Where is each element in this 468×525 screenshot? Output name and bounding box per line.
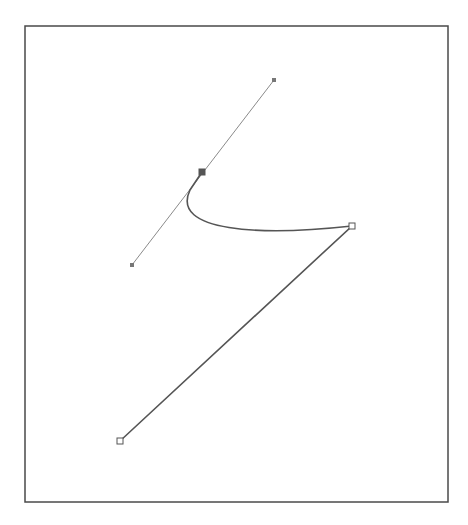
handle-point-upper-icon[interactable]: [272, 78, 276, 82]
path-editing-canvas[interactable]: [0, 0, 468, 525]
anchor-smooth-icon[interactable]: [199, 169, 205, 175]
anchor-corner-icon[interactable]: [349, 223, 355, 229]
bezier-path[interactable]: [120, 172, 352, 441]
artboard-frame: [25, 26, 448, 502]
handle-point-lower-icon[interactable]: [130, 263, 134, 267]
anchor-start-icon[interactable]: [117, 438, 123, 444]
